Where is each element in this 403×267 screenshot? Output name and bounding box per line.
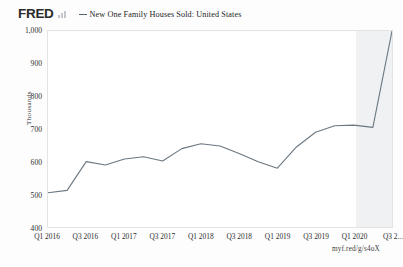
chart-header: FRED New One Family Houses Sold: United …: [18, 6, 241, 22]
series-line-new-one-family-houses-sold: [48, 31, 392, 227]
source-link: myf.red/g/s4oX: [332, 245, 380, 253]
y-axis-title: Thousands: [25, 73, 33, 143]
y-axis-tick-label: 800: [0, 92, 42, 101]
y-axis-tick-label: 600: [0, 158, 42, 167]
fred-logo: FRED: [18, 7, 54, 21]
x-axis-tick-label: Q1 2017: [111, 232, 137, 241]
x-axis-tick-label: Q3 2017: [149, 232, 175, 241]
y-axis-tick-label: 700: [0, 125, 42, 134]
y-axis-tick-label: 900: [0, 59, 42, 68]
x-axis-tick-label: Q1 2019: [265, 232, 291, 241]
chart-legend: New One Family Houses Sold: United State…: [79, 10, 242, 19]
x-axis-tick-label: Q3 2016: [73, 232, 99, 241]
y-axis-tick-label: 500: [0, 191, 42, 200]
x-axis-tick-label: Q3 2018: [226, 232, 252, 241]
x-axis-tick-label: Q1 2020: [342, 232, 368, 241]
x-axis-tick-label: Q3 2019: [303, 232, 329, 241]
plot-area: [47, 30, 393, 228]
legend-series-label: New One Family Houses Sold: United State…: [90, 10, 242, 19]
y-axis-tick-label: 1,000: [0, 26, 42, 35]
x-axis-tick-label: Q1 2016: [34, 232, 60, 241]
legend-line-swatch: [79, 14, 87, 15]
x-axis-tick-label: Q3 2...: [383, 232, 403, 241]
bar-chart-icon: [58, 10, 66, 18]
x-axis-tick-label: Q1 2018: [188, 232, 214, 241]
